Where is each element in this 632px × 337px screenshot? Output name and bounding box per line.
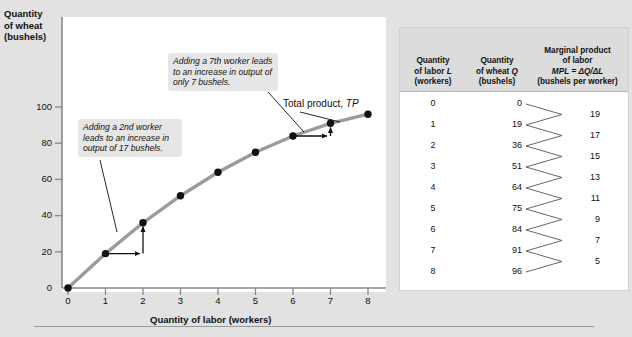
table-row: 6: [402, 224, 464, 234]
y-axis-title-line1: Quantity: [4, 8, 43, 19]
y-axis-title-line2: of wheat: [4, 20, 43, 31]
y-axis-title: Quantity of wheat (bushels): [4, 8, 62, 43]
table-cell-mpl: 11: [566, 193, 600, 203]
data-point: [64, 284, 71, 291]
table-header-mpl-formula: ΔQ/ΔL: [579, 67, 604, 76]
y-tick-label-100: 100: [22, 101, 52, 112]
data-point: [177, 192, 184, 199]
bottom-divider: [34, 326, 594, 327]
curve-label-text: Total product,: [283, 98, 346, 109]
table-header-mpl-equals: =: [569, 67, 578, 76]
table-header-labor-line1: Quantity: [416, 56, 449, 65]
callout-seventh-worker: Adding a 7th worker leads to an increase…: [168, 53, 278, 91]
table-cell-wheat: 84: [466, 224, 522, 234]
table-cell-mpl: 7: [566, 235, 600, 245]
table-cell-mpl: 19: [566, 109, 600, 119]
x-axis-title: Quantity of labor (workers): [150, 314, 400, 326]
x-tick-label-5: 5: [249, 295, 263, 306]
x-tick-label-2: 2: [136, 295, 150, 306]
table-cell-mpl: 15: [566, 151, 600, 161]
curve-label-symbol: TP: [346, 98, 359, 109]
table-header-labor: Quantity of labor L (workers): [402, 56, 464, 87]
table-cell-wheat: 75: [466, 203, 522, 213]
table-header-wheat-line2-pre: of wheat: [476, 67, 511, 76]
curve-label: Total product, TP: [283, 98, 359, 109]
table-header-labor-line2-pre: of labor: [414, 67, 446, 76]
table-cell-mpl: 5: [566, 256, 600, 266]
x-axis-ticks: [68, 288, 368, 295]
table-header-wheat-line3: (bushels): [479, 77, 515, 86]
table-cell-wheat: 19: [466, 119, 522, 129]
table-header-wheat-symbol: Q: [512, 67, 518, 76]
data-point: [214, 169, 221, 176]
data-point: [139, 219, 146, 226]
table-row: 0: [402, 98, 464, 108]
table-row: 3: [402, 161, 464, 171]
x-tick-label-6: 6: [286, 295, 300, 306]
table-cell-mpl: 17: [566, 130, 600, 140]
table-cell-wheat: 51: [466, 161, 522, 171]
y-tick-label-60: 60: [22, 173, 52, 184]
table-cell-mpl: 13: [566, 172, 600, 182]
table-cell-mpl: 9: [566, 214, 600, 224]
table-cell-wheat: 36: [466, 140, 522, 150]
y-tick-label-80: 80: [22, 137, 52, 148]
y-tick-label-40: 40: [22, 209, 52, 220]
x-tick-label-4: 4: [211, 295, 225, 306]
table-row: 7: [402, 245, 464, 255]
table-header-labor-line3: (workers): [415, 77, 452, 86]
table-header-mpl: Marginal product of labor MPL = ΔQ/ΔL (b…: [528, 46, 627, 87]
y-tick-label-20: 20: [22, 246, 52, 257]
data-table-panel: Quantity of labor L (workers) Quantity o…: [400, 28, 628, 290]
table-cell-wheat: 96: [466, 266, 522, 276]
chart-svg: [0, 0, 400, 310]
figure-total-product: Quantity of wheat (bushels) Quantity of …: [0, 0, 632, 337]
table-header-wheat: Quantity of wheat Q (bushels): [464, 56, 530, 87]
table-header-row: Quantity of labor L (workers) Quantity o…: [400, 28, 628, 92]
y-tick-label-0: 0: [22, 282, 52, 293]
chart-panel: Quantity of wheat (bushels) Quantity of …: [0, 0, 400, 310]
table-cell-wheat: 64: [466, 182, 522, 192]
table-cell-wheat: 0: [466, 98, 522, 108]
table-row: 5: [402, 203, 464, 213]
table-row: 8: [402, 266, 464, 276]
data-point: [252, 149, 259, 156]
x-tick-label-1: 1: [99, 295, 113, 306]
table-header-mpl-symbol: MPL: [552, 67, 569, 76]
table-header-mpl-line2: of labor: [562, 56, 592, 65]
table-header-mpl-line4: (bushels per worker): [537, 77, 618, 86]
leader-line-second-worker: [100, 160, 117, 232]
table-row: 4: [402, 182, 464, 192]
y-axis-ticks: [55, 107, 62, 252]
x-tick-label-8: 8: [361, 295, 375, 306]
leader-line-curve-label: [300, 112, 340, 122]
table-body: 0 1 2 3 4 5 6 7 8 0 19 36 51 64 75 84 91…: [400, 92, 628, 290]
table-header-labor-symbol: L: [447, 67, 452, 76]
data-point: [364, 111, 371, 118]
x-tick-label-7: 7: [324, 295, 338, 306]
table-row: 2: [402, 140, 464, 150]
table-header-wheat-line1: Quantity: [480, 56, 513, 65]
y-axis-title-line3: (bushels): [4, 31, 46, 42]
callout-second-worker: Adding a 2nd worker leads to an increase…: [78, 119, 182, 157]
table-row: 1: [402, 119, 464, 129]
table-cell-wheat: 91: [466, 245, 522, 255]
x-tick-label-0: 0: [61, 295, 75, 306]
table-header-mpl-line1: Marginal product: [544, 46, 610, 55]
x-tick-label-3: 3: [174, 295, 188, 306]
